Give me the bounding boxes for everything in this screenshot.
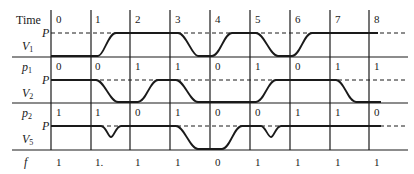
v2-row-label: V2 [22, 87, 33, 103]
p1-row-label: p1 [22, 61, 32, 77]
p2-value-8: 0 [374, 107, 380, 118]
f-value-4: 0 [215, 157, 221, 168]
p2-value-4: 0 [215, 107, 221, 118]
p2-value-6: 1 [295, 107, 301, 118]
diagram-lines [0, 0, 414, 174]
p2-value-1: 1 [95, 107, 101, 118]
f-value-5: 1 [255, 157, 261, 168]
p2-value-7: 1 [335, 107, 341, 118]
f-row-label: f [24, 156, 27, 168]
p2-value-0: 1 [56, 107, 62, 118]
time-tick-1: 1 [95, 14, 101, 25]
p2-value-2: 0 [135, 107, 141, 118]
p1-value-0: 0 [56, 61, 62, 72]
f-value-2: 1 [135, 157, 141, 168]
f-value-8: 1 [374, 157, 380, 168]
p1-value-4: 0 [215, 61, 221, 72]
v5-label-sub: 5 [29, 138, 33, 147]
p2-value-3: 1 [175, 107, 181, 118]
time-tick-8: 8 [374, 14, 380, 25]
f-value-3: 1 [175, 157, 181, 168]
time-tick-4: 4 [215, 14, 221, 25]
f-value-1: 1. [95, 157, 103, 168]
v5-p-level-label: P [42, 120, 49, 132]
time-label: Time [16, 14, 41, 26]
f-value-6: 1 [295, 157, 301, 168]
p1-value-3: 1 [175, 61, 181, 72]
p2-value-5: 0 [255, 107, 261, 118]
p1-value-2: 1 [135, 61, 141, 72]
p1-label-sub: 1 [28, 66, 32, 75]
v1-row-label: V1 [22, 40, 33, 56]
v2-waveform [51, 80, 381, 102]
p2-row-label: p2 [22, 107, 32, 123]
p1-value-8: 1 [374, 61, 380, 72]
p1-value-7: 1 [335, 61, 341, 72]
v2-label-sub: 2 [29, 92, 33, 101]
p1-value-5: 1 [255, 61, 261, 72]
v2-p-level-label: P [42, 74, 49, 86]
v5-row-label: V5 [22, 133, 33, 149]
time-tick-7: 7 [335, 14, 341, 25]
time-tick-5: 5 [255, 14, 261, 25]
p1-value-6: 0 [295, 61, 301, 72]
v1-p-level-label: P [42, 27, 49, 39]
p1-value-1: 0 [95, 61, 101, 72]
f-value-7: 1 [335, 157, 341, 168]
time-tick-3: 3 [175, 14, 181, 25]
v5-waveform [51, 126, 381, 149]
p2-label-sub: 2 [28, 112, 32, 121]
time-tick-0: 0 [56, 14, 62, 25]
timing-diagram: Time 0 1 2 3 4 5 6 7 8 P V1 p1 0 0 1 1 0… [0, 0, 414, 174]
time-tick-2: 2 [135, 14, 141, 25]
f-value-0: 1 [56, 157, 62, 168]
v1-waveform [51, 33, 378, 56]
time-tick-6: 6 [295, 14, 301, 25]
v1-label-sub: 1 [29, 45, 33, 54]
